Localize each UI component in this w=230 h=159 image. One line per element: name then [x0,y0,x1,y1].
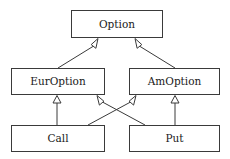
generalization-put-to-amoption [171,96,179,126]
hollow-triangle-arrowhead-icon [129,96,136,106]
generalization-amoption-to-option [135,39,175,69]
generalization-euroption-to-option [58,39,98,69]
class-label: Put [165,132,184,144]
generalization-line [88,102,132,126]
hollow-triangle-arrowhead-icon [97,96,104,106]
class-label: Option [99,18,135,30]
class-label: AmOption [147,75,202,87]
generalization-line [102,102,146,126]
diagram-canvas: Option EurOption AmOption Call Put [0,0,230,159]
generalization-call-to-amoption [88,96,136,126]
class-node-call[interactable]: Call [12,126,105,152]
generalization-line [139,46,176,69]
class-node-option[interactable]: Option [72,11,163,38]
class-label: Call [47,132,69,144]
generalization-call-to-euroption [53,96,61,126]
generalization-put-to-euroption [97,96,145,126]
hollow-triangle-arrowhead-icon [53,96,61,104]
class-node-put[interactable]: Put [130,126,220,152]
class-node-amoption[interactable]: AmOption [130,69,220,95]
hollow-triangle-arrowhead-icon [171,96,179,104]
uml-class-diagram: Option EurOption AmOption Call Put [0,0,230,159]
class-label: EurOption [30,75,86,87]
class-node-euroption[interactable]: EurOption [12,69,105,95]
generalization-line [58,46,95,69]
